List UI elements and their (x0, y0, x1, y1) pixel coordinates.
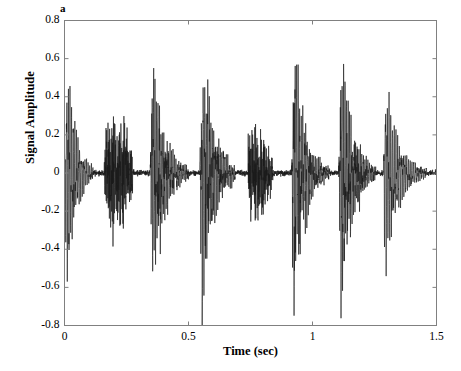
y-tick-label: -0.2 (41, 203, 59, 215)
x-axis-title: Time (sec) (0, 344, 461, 359)
y-tick-label: 0.8 (45, 13, 59, 25)
signal-amplitude-figure: a 0.80.60.40.20-0.2-0.4-0.6-0.800.511.5 … (0, 0, 461, 371)
y-tick-label: 0.2 (45, 127, 59, 139)
x-tick-label: 0.5 (169, 330, 209, 342)
y-tick-label: -0.6 (41, 279, 59, 291)
panel-label: a (60, 2, 66, 14)
x-tick-label: 1 (293, 330, 333, 342)
x-tick-label: 0 (45, 330, 85, 342)
y-tick-label: 0.4 (45, 89, 59, 101)
y-tick-label: 0.6 (45, 51, 59, 63)
x-tick-label: 1.5 (417, 330, 457, 342)
x-axis-title-text: Time (sec) (223, 344, 278, 359)
y-tick-label: -0.4 (41, 241, 59, 253)
y-tick-label: 0 (54, 165, 60, 177)
y-tick-label: -0.8 (41, 318, 59, 330)
y-axis-title: Signal Amplitude (23, 28, 38, 208)
waveform-plot (0, 0, 461, 371)
